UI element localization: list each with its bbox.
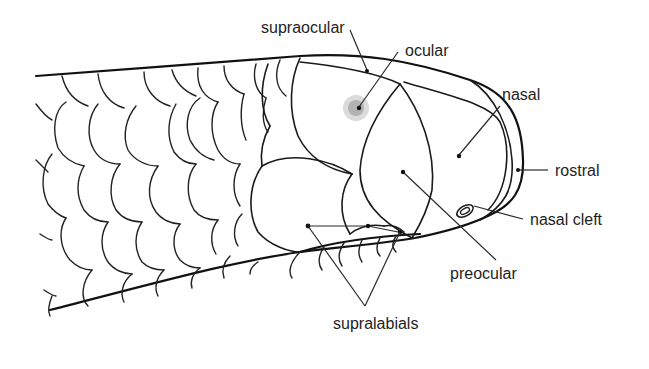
label-nasal: nasal xyxy=(502,86,540,103)
body-scales xyxy=(36,60,396,316)
snake-head-diagram: supraocular ocular nasal rostral nasal c… xyxy=(0,0,649,369)
label-supraocular: supraocular xyxy=(261,19,345,36)
label-ocular: ocular xyxy=(405,42,449,59)
label-supralabials: supralabials xyxy=(333,315,418,332)
label-preocular: preocular xyxy=(450,265,517,282)
labels: supraocular ocular nasal rostral nasal c… xyxy=(261,19,603,332)
label-nasal-cleft: nasal cleft xyxy=(530,211,603,228)
label-rostral: rostral xyxy=(555,162,599,179)
